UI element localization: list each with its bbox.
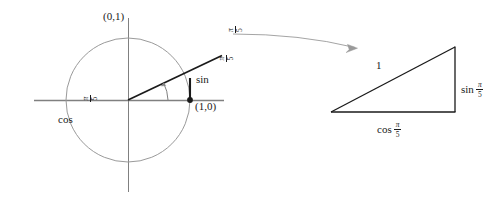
point-marker — [187, 97, 193, 103]
label-ray-angle: π 5 — [222, 27, 244, 37]
sine-circle-frac: π 5 — [218, 55, 235, 62]
cosine-circle-function: cos — [58, 113, 73, 125]
triangle-adjacent-function: cos — [377, 124, 392, 135]
sine-circle-denominator: 5 — [227, 56, 235, 62]
ray-angle-numerator: π — [227, 27, 235, 33]
label-triangle-opposite: sin π 5 — [461, 80, 483, 98]
triangle-hypotenuse — [331, 47, 455, 112]
ray-angle-denominator: 5 — [236, 27, 244, 33]
figure-root: (0,1) (1,0) π 5 sin π 5 cos π 5 — [0, 0, 487, 200]
triangle-adjacent-numerator: π — [395, 121, 401, 129]
triangle-group — [331, 47, 456, 113]
label-sine-circle: sin — [196, 70, 209, 86]
label-sine-circle-fraction: π 5 — [217, 55, 235, 62]
cosine-circle-denominator: 5 — [91, 96, 99, 102]
ray-angle-fraction: π 5 — [227, 27, 244, 37]
label-point-zero-one: (0,1) — [103, 11, 124, 22]
triangle-opposite-function: sin — [461, 84, 474, 95]
label-hypotenuse: 1 — [376, 60, 382, 71]
curved-arrow — [233, 34, 355, 48]
triangle-opposite-frac: π 5 — [476, 81, 483, 98]
curved-arrow-group — [233, 34, 358, 53]
label-cosine-circle-fraction: π 5 — [81, 95, 99, 102]
sine-circle-numerator: π — [218, 56, 226, 62]
label-triangle-adjacent: cos π 5 — [377, 120, 401, 138]
label-point-one-zero: (1,0) — [195, 101, 216, 112]
triangle-opposite-group: sin π 5 — [461, 81, 483, 98]
cosine-circle-frac: π 5 — [82, 95, 99, 102]
ray-angle-frac: π 5 — [227, 27, 244, 34]
triangle-opposite-numerator: π — [477, 81, 483, 89]
triangle-opposite-denominator: 5 — [477, 91, 483, 99]
sine-circle-function: sin — [196, 73, 209, 85]
triangle-adjacent-group: cos π 5 — [377, 121, 401, 138]
curved-arrow-head — [346, 44, 357, 52]
triangle-adjacent-frac: π 5 — [394, 121, 401, 138]
label-cosine-circle: cos — [58, 110, 73, 126]
triangle-adjacent-denominator: 5 — [395, 131, 401, 139]
cosine-circle-numerator: π — [82, 96, 90, 102]
